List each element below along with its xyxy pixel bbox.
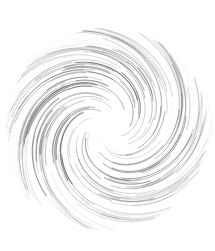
spiral-swirl-graphic: Spiral Swirl Sketch Hand-drawn style rad… [0, 0, 215, 251]
artwork-canvas: Spiral Swirl Sketch Hand-drawn style rad… [0, 0, 215, 251]
